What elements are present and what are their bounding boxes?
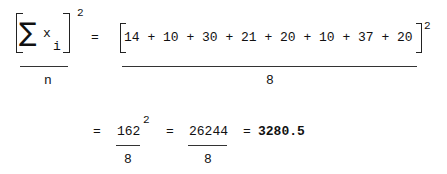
equals-sign-3: = xyxy=(166,125,174,139)
sigma-symbol: ∑ xyxy=(19,19,37,45)
equals-sign-2: = xyxy=(93,125,101,139)
sum-bracket-close xyxy=(416,23,422,53)
result-value: 3280.5 xyxy=(258,125,305,139)
step1-denominator: 8 xyxy=(266,74,274,88)
lhs-exponent: 2 xyxy=(77,7,84,19)
step3-fraction-bar xyxy=(188,145,227,146)
step2-exponent: 2 xyxy=(143,114,150,126)
variable-x: x xyxy=(43,27,51,41)
step2-numerator: 162 xyxy=(117,125,140,139)
left-bracket-close xyxy=(63,13,70,53)
equals-sign-1: = xyxy=(91,31,99,45)
lhs-denominator: n xyxy=(44,74,52,88)
lhs-fraction-bar xyxy=(20,66,68,67)
step1-fraction-bar xyxy=(122,66,417,67)
subscript-i: i xyxy=(53,40,61,54)
sum-expression: 14 + 10 + 30 + 21 + 20 + 10 + 37 + 20 xyxy=(124,31,413,45)
equals-sign-4: = xyxy=(243,125,251,139)
step2-denominator: 8 xyxy=(124,153,132,167)
step3-numerator: 26244 xyxy=(189,125,228,139)
step2-fraction-bar xyxy=(116,145,140,146)
step1-exponent: 2 xyxy=(424,20,431,32)
step3-denominator: 8 xyxy=(204,153,212,167)
